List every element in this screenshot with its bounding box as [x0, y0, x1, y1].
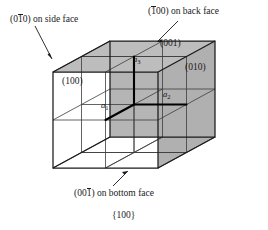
axis-label-a3: a3: [133, 54, 141, 65]
top-face-label: (001): [160, 38, 181, 48]
callout-side-face-prefix: (0: [10, 14, 18, 24]
callout-bottom-face-prefix: (00: [74, 188, 87, 198]
callout-bottom-face-overbar-digit: 1: [87, 188, 92, 198]
callout-side-face-overbar-digit: 1: [18, 14, 23, 24]
axis-a3-sub: 3: [137, 58, 140, 65]
axis-a1-sub: 1: [105, 104, 108, 111]
crystal-plane-figure: (010) on side face (100) on back face (0…: [0, 0, 268, 230]
axis-label-a2: a2: [163, 89, 171, 100]
callout-side-face-suffix: 0) on side face: [23, 14, 79, 24]
right-face-label: (010): [185, 62, 206, 72]
callout-back-face: (100) on back face: [148, 6, 219, 16]
leader-bottom-face: [113, 171, 128, 186]
front-face-label: (100): [62, 76, 83, 86]
callout-bottom-face: (001) on bottom face: [74, 188, 154, 198]
callout-back-face-suffix: 00) on back face: [156, 6, 219, 16]
callout-side-face: (010) on side face: [10, 14, 78, 24]
arrowhead-side-face: [48, 53, 53, 59]
axis-a2-sub: 2: [167, 93, 170, 100]
figure-caption: {100}: [112, 210, 135, 220]
callout-bottom-face-suffix: ) on bottom face: [91, 188, 154, 198]
callout-back-face-overbar-digit: 1: [151, 6, 156, 16]
axis-label-a1: a1: [101, 100, 109, 111]
